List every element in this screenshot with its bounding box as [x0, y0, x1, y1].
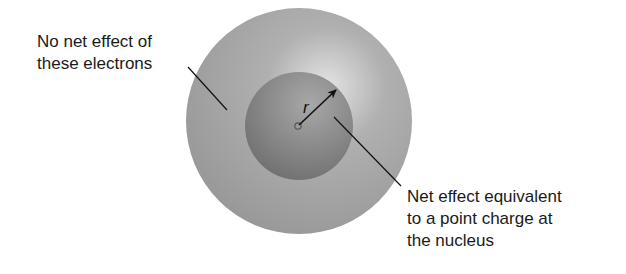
inner-electrons-label: Net effect equivalent to a point charge …	[407, 186, 562, 252]
outer-electrons-label: No net effect of these electrons	[37, 31, 152, 75]
label-line: Net effect equivalent	[407, 186, 562, 208]
label-line: No net effect of	[37, 31, 152, 53]
label-line: to a point charge at	[407, 208, 562, 230]
label-line: the nucleus	[407, 230, 562, 252]
label-line: these electrons	[37, 53, 152, 75]
